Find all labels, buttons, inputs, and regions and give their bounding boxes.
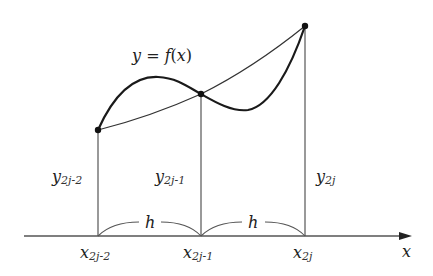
curve-label: y = f(x) <box>131 46 192 65</box>
h-bracket-right-a <box>201 222 242 236</box>
x-label-2j-1: x2j-1 <box>183 243 213 263</box>
h-label-left: h <box>145 213 155 232</box>
node-point-right <box>302 23 308 29</box>
x-axis-label: x <box>402 242 411 261</box>
x-axis-arrow-icon <box>399 232 412 240</box>
node-point-middle <box>198 91 204 97</box>
y-label-2j: y2j <box>315 167 336 187</box>
h-bracket-left-b <box>161 222 201 236</box>
y-label-2j-2: y2j-2 <box>51 167 82 187</box>
h-label-right: h <box>248 213 258 232</box>
h-bracket-left-a <box>98 222 139 236</box>
node-point-left <box>95 127 101 133</box>
x-label-2j: x2j <box>293 243 313 263</box>
h-bracket-right-b <box>265 222 305 236</box>
x-label-2j-2: x2j-2 <box>80 243 110 263</box>
simpson-rule-diagram: h h y = f(x) y2j-2 y2j-1 y2j x2j-2 x2j-1… <box>0 0 433 276</box>
y-label-2j-1: y2j-1 <box>154 167 185 187</box>
